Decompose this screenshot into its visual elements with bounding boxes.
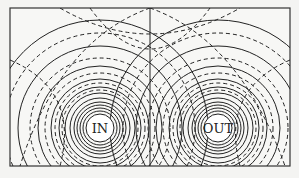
label-in: IN — [92, 121, 109, 136]
conductor-in: IN — [86, 114, 114, 142]
field-diagram: IN OUT — [0, 0, 299, 178]
label-out: OUT — [203, 121, 234, 136]
